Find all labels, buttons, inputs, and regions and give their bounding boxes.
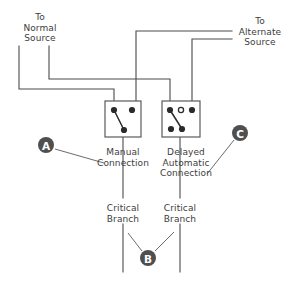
delayed-terminal-top-center-open xyxy=(178,107,183,112)
wire-normal-source-inner xyxy=(49,46,170,101)
label-delayed-automatic-connection: Delayed Automatic Connection xyxy=(148,147,224,179)
delayed-terminal-top-left xyxy=(167,107,173,113)
delayed-terminal-bottom-left xyxy=(168,126,174,132)
wire-alternate-source-inner xyxy=(192,39,232,101)
callout-marker-b[interactable]: B xyxy=(140,250,156,266)
manual-terminal-top-left xyxy=(111,107,117,113)
switch-delayed-automatic-connection[interactable] xyxy=(162,101,200,137)
callout-b-leader-line-right xyxy=(155,232,174,251)
callout-c-letter: C xyxy=(236,128,244,140)
manual-terminal-bottom-center xyxy=(121,127,127,133)
callout-b-leader-line-left xyxy=(128,233,142,251)
label-critical-branch-left: Critical Branch xyxy=(95,203,151,224)
wire-normal-source-outer xyxy=(19,46,114,101)
delayed-terminal-top-right xyxy=(189,107,195,113)
transfer-switch-diagram: A B C To Normal Source To Alternate Sour… xyxy=(0,0,296,283)
label-critical-branch-right: Critical Branch xyxy=(152,203,208,224)
callout-a-letter: A xyxy=(42,140,51,152)
callout-b-letter: B xyxy=(144,253,152,265)
callout-marker-a[interactable]: A xyxy=(38,137,54,153)
switch-manual-connection[interactable] xyxy=(105,101,141,137)
manual-terminal-top-right xyxy=(129,107,135,113)
label-normal-source: To Normal Source xyxy=(8,12,72,44)
callout-marker-c[interactable]: C xyxy=(232,125,248,141)
delayed-terminal-bottom-right xyxy=(179,126,185,132)
label-alternate-source: To Alternate Source xyxy=(228,16,292,48)
wire-alternate-source-outer xyxy=(136,31,232,101)
